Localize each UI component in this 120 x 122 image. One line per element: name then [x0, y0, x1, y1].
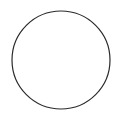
circle-figure-svg	[0, 0, 120, 122]
figure-canvas	[0, 0, 120, 122]
canvas-background	[0, 0, 120, 122]
